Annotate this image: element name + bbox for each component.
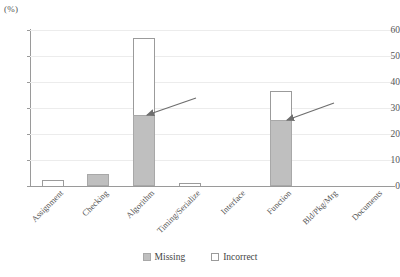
bar-segment-missing (133, 115, 155, 187)
x-axis-label: Assignment (29, 188, 65, 224)
x-axis-line (30, 186, 395, 187)
legend-item: Missing (143, 252, 186, 262)
bar-group (42, 180, 64, 187)
x-axis-label: Interface (219, 188, 247, 216)
y-axis-unit-label: (%) (4, 4, 18, 14)
bar-segment-incorrect (179, 183, 201, 186)
bar-segment-incorrect (270, 91, 292, 120)
y-axis-tick-mark (27, 186, 30, 187)
x-axis-label: Algorithm (124, 188, 156, 220)
bar-segment-incorrect (42, 180, 64, 187)
bar-segment-incorrect (133, 38, 155, 115)
x-axis-label: Documents (350, 188, 384, 222)
outlined-white-swatch (211, 253, 219, 261)
x-axis-label: Timing/Serialize (155, 188, 202, 235)
bar-segment-missing (270, 120, 292, 186)
bar-group (87, 174, 109, 186)
stacked-bar-chart: (%) 0102030405060 AssignmentCheckingAlgo… (0, 0, 400, 277)
x-axis-label: Checking (80, 188, 110, 218)
plot-area (30, 30, 395, 186)
bar-group (270, 91, 292, 186)
x-axis-category-labels: AssignmentCheckingAlgorithmTiming/Serial… (30, 188, 395, 250)
legend-item: Incorrect (211, 252, 257, 262)
bar-group (133, 38, 155, 186)
chart-legend: MissingIncorrect (0, 252, 400, 262)
legend-label: Missing (155, 252, 186, 262)
bar-segment-missing (87, 174, 109, 186)
filled-gray-swatch (143, 253, 151, 261)
x-axis-label: Bld/Pkg/Mrg (300, 188, 339, 227)
x-axis-label: Function (265, 188, 293, 216)
bar-group (179, 183, 201, 186)
legend-label: Incorrect (223, 252, 257, 262)
